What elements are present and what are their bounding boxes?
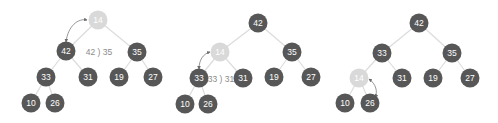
tree-node: 33 [190, 69, 209, 88]
tree-node: 42 [57, 42, 76, 61]
svg-text:35: 35 [132, 47, 142, 57]
comparison-label: 33 ) 31 [208, 74, 235, 84]
tree-node: 33 [37, 68, 56, 87]
edges [345, 23, 470, 103]
edges [185, 23, 311, 104]
svg-text:26: 26 [203, 99, 213, 109]
svg-text:19: 19 [428, 73, 438, 83]
tree-node: 33 [373, 44, 392, 63]
svg-text:26: 26 [50, 98, 60, 108]
tree-node: 19 [110, 68, 129, 87]
svg-text:35: 35 [447, 48, 457, 58]
tree-node: 31 [234, 69, 253, 88]
svg-text:42: 42 [414, 18, 424, 28]
tree-node: 19 [265, 68, 284, 87]
svg-text:27: 27 [148, 72, 158, 82]
tree-node: 27 [302, 68, 321, 87]
heap-panel-1: 14 42 35 33 31 19 27 10 26 42 ) 35 [22, 11, 163, 113]
tree-node: 42 [410, 14, 429, 33]
tree-node: 31 [393, 69, 412, 88]
svg-text:31: 31 [83, 72, 93, 82]
tree-node: 26 [361, 94, 380, 113]
svg-text:14: 14 [93, 15, 103, 25]
tree-node: 10 [176, 95, 195, 114]
svg-text:33: 33 [194, 73, 204, 83]
svg-text:14: 14 [215, 47, 225, 57]
svg-text:27: 27 [306, 72, 316, 82]
tree-node: 14 [211, 43, 230, 62]
svg-text:10: 10 [180, 99, 190, 109]
svg-text:10: 10 [340, 98, 350, 108]
heap-diagram: 14 42 35 33 31 19 27 10 26 42 ) 35 42 14… [0, 0, 498, 123]
tree-node: 35 [128, 43, 147, 62]
tree-node: 35 [283, 43, 302, 62]
tree-node: 27 [461, 69, 480, 88]
svg-text:19: 19 [114, 72, 124, 82]
heap-panel-2: 42 14 35 33 31 19 27 10 26 33 ) 31 [176, 14, 321, 114]
tree-node: 10 [336, 94, 355, 113]
svg-text:42: 42 [61, 46, 71, 56]
tree-node: 14 [89, 11, 108, 30]
svg-text:14: 14 [354, 73, 364, 83]
comparison-label: 42 ) 35 [86, 47, 113, 57]
tree-node: 27 [144, 68, 163, 87]
svg-text:33: 33 [41, 72, 51, 82]
svg-text:26: 26 [365, 98, 375, 108]
svg-text:42: 42 [253, 18, 263, 28]
tree-node: 31 [79, 68, 98, 87]
tree-node: 26 [46, 94, 65, 113]
tree-node: 42 [249, 14, 268, 33]
svg-text:10: 10 [26, 98, 36, 108]
svg-text:33: 33 [377, 48, 387, 58]
svg-text:19: 19 [269, 72, 279, 82]
heap-panel-3: 42 33 35 14 31 19 27 10 26 [336, 14, 480, 113]
svg-text:35: 35 [287, 47, 297, 57]
svg-text:31: 31 [397, 73, 407, 83]
tree-node: 10 [22, 94, 41, 113]
tree-node: 14 [350, 69, 369, 88]
edges [31, 20, 153, 103]
svg-text:31: 31 [238, 73, 248, 83]
tree-node: 26 [199, 95, 218, 114]
swap-arrow [66, 20, 87, 42]
tree-node: 35 [443, 44, 462, 63]
tree-node: 19 [424, 69, 443, 88]
svg-text:27: 27 [465, 73, 475, 83]
